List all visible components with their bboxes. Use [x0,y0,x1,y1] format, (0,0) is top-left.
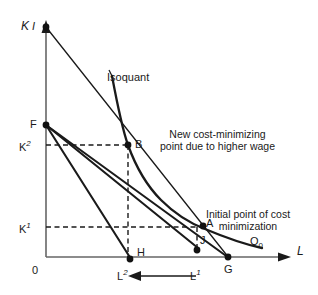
shift-arrow-head [128,271,141,281]
y-axis-label: K [21,20,29,34]
annotation-new-cost-minimizing: New cost-minimizing point due to higher … [160,128,275,152]
point-label-J: J [200,234,206,247]
point-label-H: H [137,246,145,259]
tick-label-l1: L1 [190,268,201,282]
tick-label-l2: L2 [117,268,128,282]
isoquant-label: Isoquant [107,71,149,84]
point-marker-J [194,247,201,254]
output-curve-label-base: Q [250,235,259,247]
tick-label-l1-exponent: 1 [196,268,200,277]
point-marker-I [43,24,50,31]
origin-label: 0 [32,264,38,277]
output-curve-label-subscript: 0 [259,241,263,250]
annotation-new-line1: New cost-minimizing [160,128,275,140]
point-marker-B [125,142,132,149]
output-curve-label: Q0 [250,235,263,250]
point-label-G: G [224,263,233,276]
isoquant-isocost-figure: K L 0 I F B A J H G K2 K1 L2 L1 Isoquant… [0,0,318,295]
tick-label-k2-exponent: 2 [26,139,30,148]
x-axis-arrowhead [278,253,291,262]
point-label-F: F [30,118,37,131]
point-marker-H [127,256,134,263]
tick-label-k2: K2 [19,139,31,153]
point-label-B: B [135,138,142,151]
tick-label-l2-exponent: 2 [123,268,127,277]
annotation-initial-line2: minimization [206,220,290,232]
annotation-initial-line1: Initial point of cost [206,208,290,220]
point-label-I: I [32,20,35,33]
tick-label-k1: K1 [19,221,31,235]
point-marker-F [43,122,50,129]
shift-arrow-group [128,271,196,281]
point-marker-G [225,254,232,261]
x-axis-label: L [297,245,304,259]
annotation-initial-point: Initial point of cost minimization [206,208,290,232]
tick-label-k1-exponent: 1 [26,221,30,230]
annotation-new-line2: point due to higher wage [160,140,275,152]
